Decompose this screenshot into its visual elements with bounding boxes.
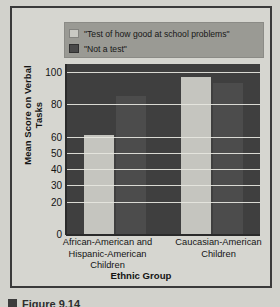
chart-frame: "Test of how good at school problems" "N… <box>10 6 272 288</box>
legend-item-not-test: "Not a test" <box>69 41 259 56</box>
bar-test-group-1 <box>84 135 114 234</box>
legend-label-not-test: "Not a test" <box>84 44 127 54</box>
legend-item-test: "Test of how good at school problems" <box>69 26 259 41</box>
x-axis-line <box>66 234 260 236</box>
y-axis-tick-label: 30 <box>18 180 66 191</box>
y-axis-tick-label: 60 <box>18 131 66 142</box>
y-axis-tick-label: 50 <box>18 148 66 159</box>
y-axis-tick-label: 80 <box>18 99 66 110</box>
category-label-line: Children <box>163 249 274 261</box>
figure-marker-icon <box>8 299 17 307</box>
figure-container: "Test of how good at school problems" "N… <box>0 0 280 307</box>
category-label-line: Hispanic-American <box>52 249 163 261</box>
legend-label-test: "Test of how good at school problems" <box>84 29 230 39</box>
legend-swatch-dark-icon <box>69 44 79 53</box>
gridline <box>66 72 260 73</box>
bar-not-test-group-2 <box>213 83 243 234</box>
figure-caption: Figure 9.14 <box>8 294 272 307</box>
figure-caption-text: Figure 9.14 <box>22 298 80 307</box>
y-axis-tick-label: 20 <box>18 196 66 207</box>
plot-area <box>66 64 260 234</box>
x-axis-title: Ethnic Group <box>12 270 270 281</box>
legend-swatch-light-icon <box>69 29 79 38</box>
y-axis-tick-label: 100 <box>18 67 66 78</box>
y-axis-line <box>65 64 67 235</box>
chart-legend: "Test of how good at school problems" "N… <box>64 22 264 58</box>
category-label-line: Caucasian-American <box>163 237 274 249</box>
y-axis-tick-label: 40 <box>18 164 66 175</box>
bar-not-test-group-1 <box>116 96 146 234</box>
bar-test-group-2 <box>181 77 211 234</box>
category-label-line: African-American and <box>52 237 163 249</box>
